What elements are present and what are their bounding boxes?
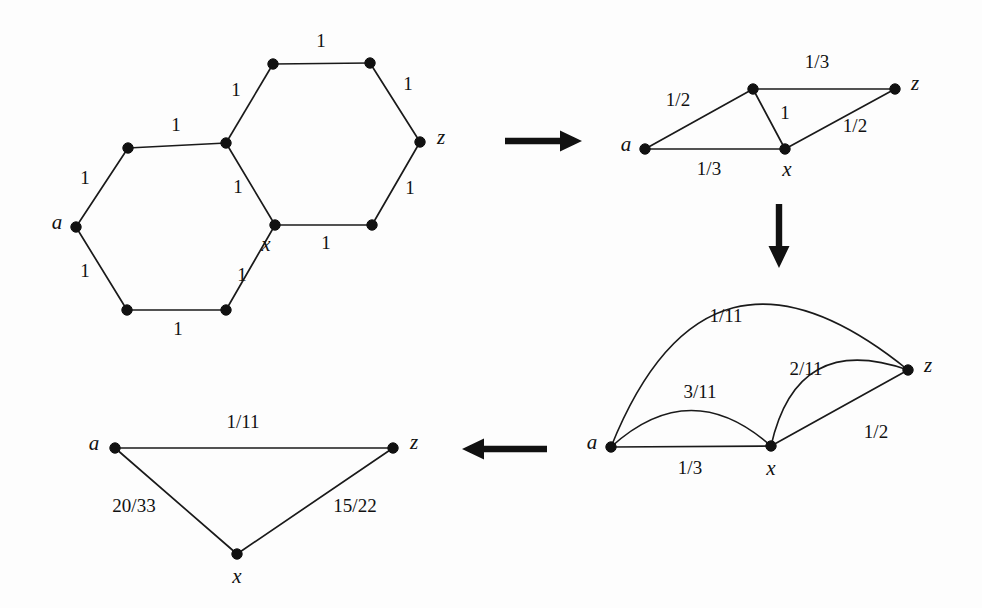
double-hexagon-graph-edge-v1-v2 bbox=[128, 143, 226, 148]
figure-root: 11111111111azx1/21/311/31/2axz1/31/21/11… bbox=[0, 0, 982, 608]
double-hexagon-graph-vertex-label-a: a bbox=[52, 210, 63, 234]
four-vertex-graph-vertex-label-z: z bbox=[910, 71, 919, 95]
triangle-graph-vertex-z bbox=[388, 443, 398, 453]
triangle-graph-vertex-label-z: z bbox=[409, 430, 418, 454]
edges-layer bbox=[76, 63, 908, 554]
multigraph-with-parallel-arcs-weight-arc-a-z: 1/11 bbox=[709, 305, 742, 326]
double-hexagon-graph-weight-v1-v2: 1 bbox=[171, 114, 181, 135]
double-hexagon-graph-weight-x-v6: 1 bbox=[237, 264, 247, 285]
arrow-down-right bbox=[769, 204, 790, 268]
double-hexagon-graph-weight-x-v2: 1 bbox=[233, 176, 243, 197]
multigraph-with-parallel-arcs-vertex-a bbox=[606, 442, 616, 452]
graph-reduction-figure: 11111111111azx1/21/311/31/2axz1/31/21/11… bbox=[0, 0, 982, 608]
four-vertex-graph-edge-a-t bbox=[645, 89, 753, 149]
multigraph-with-parallel-arcs-vertex-label-z: z bbox=[923, 353, 932, 377]
triangle-graph-weight-x-z: 15/22 bbox=[333, 495, 376, 516]
four-vertex-graph-vertex-label-x: x bbox=[781, 157, 792, 181]
double-hexagon-graph-weight-z-v5: 1 bbox=[405, 177, 415, 198]
triangle-graph-weight-a-z: 1/11 bbox=[226, 411, 259, 432]
multigraph-with-parallel-arcs-vertex-z bbox=[903, 365, 913, 375]
four-vertex-graph-weight-a-t: 1/2 bbox=[666, 89, 690, 110]
multigraph-with-parallel-arcs-weight-arc-a-x: 3/11 bbox=[683, 381, 716, 402]
arrows-layer bbox=[462, 131, 790, 460]
double-hexagon-graph-vertex-z bbox=[415, 137, 425, 147]
double-hexagon-graph-vertex-v5 bbox=[367, 220, 377, 230]
double-hexagon-graph-vertex-v3 bbox=[268, 59, 278, 69]
triangle-graph-vertex-a bbox=[110, 443, 120, 453]
four-vertex-graph-vertex-label-a: a bbox=[621, 132, 632, 156]
double-hexagon-graph-vertex-v4 bbox=[365, 58, 375, 68]
double-hexagon-graph-edge-v2-v3 bbox=[226, 64, 273, 143]
triangle-graph-vertex-label-a: a bbox=[89, 431, 100, 455]
multigraph-with-parallel-arcs-weight-arc-x-z: 2/11 bbox=[789, 358, 822, 379]
four-vertex-graph-vertex-x bbox=[780, 144, 790, 154]
multigraph-with-parallel-arcs-edge-a-x bbox=[611, 446, 771, 447]
double-hexagon-graph-vertex-v1 bbox=[123, 143, 133, 153]
double-hexagon-graph-weight-v3-v4: 1 bbox=[316, 30, 326, 51]
double-hexagon-graph-edge-v3-v4 bbox=[273, 63, 370, 64]
four-vertex-graph-weight-t-x: 1 bbox=[780, 102, 790, 123]
arrow-right-top bbox=[505, 131, 582, 152]
four-vertex-graph-weight-a-x: 1/3 bbox=[697, 158, 721, 179]
double-hexagon-graph-weight-v6-v7: 1 bbox=[173, 318, 183, 339]
double-hexagon-graph-vertex-a bbox=[71, 222, 81, 232]
double-hexagon-graph-vertex-label-x: x bbox=[260, 232, 271, 256]
triangle-graph-vertex-x bbox=[232, 549, 242, 559]
multigraph-with-parallel-arcs-vertex-label-a: a bbox=[587, 430, 598, 454]
four-vertex-graph-vertex-t bbox=[748, 84, 758, 94]
four-vertex-graph-edge-x-z bbox=[785, 89, 895, 149]
multigraph-with-parallel-arcs-vertex-x bbox=[766, 441, 776, 451]
multigraph-with-parallel-arcs-vertex-label-x: x bbox=[765, 456, 776, 480]
vertices-layer bbox=[71, 58, 913, 559]
double-hexagon-graph-vertex-v7 bbox=[122, 305, 132, 315]
double-hexagon-graph-weight-v4-z: 1 bbox=[403, 73, 413, 94]
double-hexagon-graph-weight-v5-x: 1 bbox=[321, 232, 331, 253]
multigraph-with-parallel-arcs-weight-x-z: 1/2 bbox=[864, 421, 888, 442]
four-vertex-graph-weight-x-z: 1/2 bbox=[843, 115, 867, 136]
triangle-graph-vertex-label-x: x bbox=[231, 564, 242, 588]
double-hexagon-graph-vertex-v6 bbox=[221, 305, 231, 315]
arrow-left-bottom bbox=[462, 439, 547, 460]
multigraph-with-parallel-arcs-weight-a-x: 1/3 bbox=[678, 457, 702, 478]
four-vertex-graph-vertex-z bbox=[890, 84, 900, 94]
double-hexagon-graph-vertex-v2 bbox=[221, 138, 231, 148]
four-vertex-graph-weight-t-z: 1/3 bbox=[805, 51, 829, 72]
triangle-graph-weight-a-x: 20/33 bbox=[112, 495, 155, 516]
four-vertex-graph-vertex-a bbox=[640, 144, 650, 154]
double-hexagon-graph-vertex-label-z: z bbox=[436, 125, 445, 149]
double-hexagon-graph-weight-v7-a: 1 bbox=[80, 260, 90, 281]
double-hexagon-graph-weight-a-v1: 1 bbox=[80, 167, 90, 188]
multigraph-with-parallel-arcs-arc-a-x bbox=[611, 410, 771, 447]
double-hexagon-graph-weight-v2-v3: 1 bbox=[231, 79, 241, 100]
double-hexagon-graph-vertex-x bbox=[270, 220, 280, 230]
